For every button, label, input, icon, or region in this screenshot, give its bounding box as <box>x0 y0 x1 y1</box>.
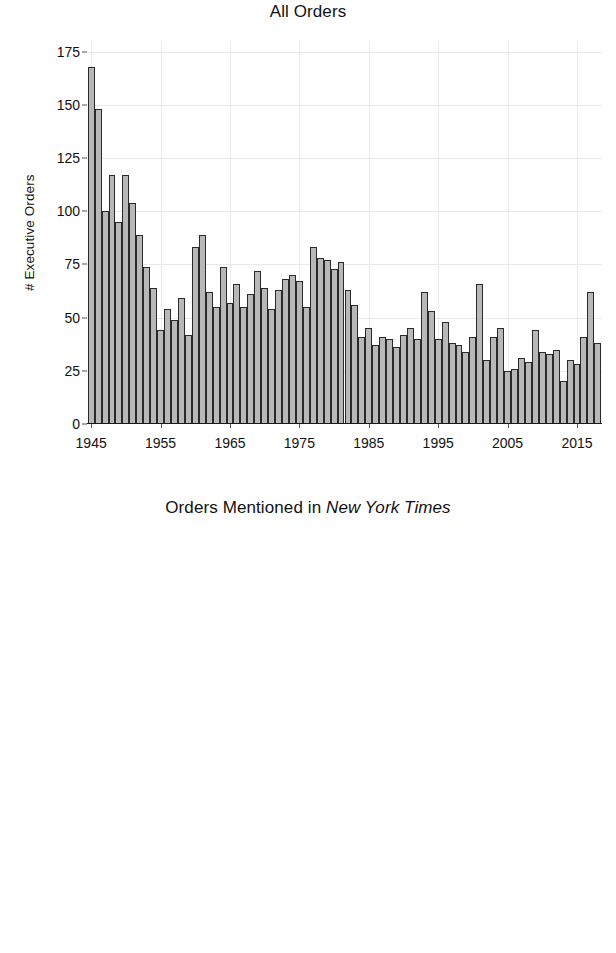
bar <box>379 337 386 424</box>
chart-title-nyt-orders: Orders Mentioned in New York Times <box>0 498 616 518</box>
bar <box>261 288 268 424</box>
bar <box>365 328 372 424</box>
y-axis-tick-mark <box>82 264 87 265</box>
bar <box>511 369 518 424</box>
bar <box>518 358 525 424</box>
chart-panel-nyt-orders: Orders Mentioned in New York Times # Exe… <box>0 478 616 953</box>
x-axis-tick-label: 1985 <box>353 435 384 451</box>
x-axis-tick-label: 1955 <box>145 435 176 451</box>
bar <box>372 345 379 424</box>
bar <box>400 335 407 424</box>
x-axis-tick-mark <box>299 424 300 428</box>
bar <box>227 303 234 424</box>
y-axis-tick-mark <box>82 211 87 212</box>
bar <box>386 339 393 424</box>
bar <box>580 337 587 424</box>
x-axis-tick-mark <box>91 424 92 428</box>
chart-title-all-orders: All Orders <box>0 2 616 22</box>
y-axis-tick-mark <box>82 317 87 318</box>
bar <box>490 337 497 424</box>
bar <box>574 364 581 424</box>
y-axis-tick-label: 75 <box>64 256 80 272</box>
bar <box>525 362 532 424</box>
x-axis-tick-label: 1965 <box>214 435 245 451</box>
y-axis-tick-mark <box>82 424 87 425</box>
bar <box>171 320 178 424</box>
bar <box>428 311 435 424</box>
bar <box>178 298 185 424</box>
chart-title-text-nyt: Orders Mentioned in <box>165 498 326 517</box>
y-axis-tick-label: 25 <box>64 363 80 379</box>
bar <box>164 309 171 424</box>
y-axis-label-top: # Executive Orders <box>22 174 37 291</box>
bar <box>233 284 240 424</box>
x-axis-tick-mark <box>161 424 162 428</box>
bar <box>456 345 463 424</box>
bar <box>136 235 143 424</box>
y-axis-tick-mark <box>82 370 87 371</box>
bar <box>206 292 213 424</box>
bar <box>358 337 365 424</box>
x-axis-tick-mark <box>508 424 509 428</box>
bar <box>282 279 289 424</box>
bar <box>546 354 553 424</box>
bar <box>199 235 206 424</box>
bar <box>254 271 261 424</box>
bar <box>157 330 164 424</box>
bar <box>393 347 400 424</box>
x-axis-tick-label: 2015 <box>561 435 592 451</box>
bar <box>275 290 282 424</box>
bar <box>351 305 358 424</box>
bar <box>268 309 275 424</box>
chart-title-italic-text-nyt: New York Times <box>326 498 451 517</box>
bar <box>497 328 504 424</box>
bar <box>122 175 129 424</box>
bar <box>240 307 247 424</box>
bar <box>449 343 456 424</box>
bar <box>345 290 352 424</box>
bar <box>129 203 136 424</box>
y-axis-tick-label: 175 <box>57 44 80 60</box>
bar <box>407 328 414 424</box>
bar <box>289 275 296 424</box>
y-axis-tick-label: 125 <box>57 150 80 166</box>
bar <box>296 281 303 424</box>
x-axis-tick-label: 1975 <box>284 435 315 451</box>
bar <box>331 269 338 424</box>
bar <box>310 247 317 424</box>
chart-title-text: All Orders <box>270 2 347 21</box>
bar <box>469 337 476 424</box>
bar <box>115 222 122 424</box>
x-axis-tick-mark <box>577 424 578 428</box>
chart-panel-all-orders: All Orders # Executive Orders 0255075100… <box>0 0 616 478</box>
x-axis-tick-mark <box>230 424 231 428</box>
bar <box>150 288 157 424</box>
y-axis-tick-label: 150 <box>57 97 80 113</box>
bar <box>421 292 428 424</box>
bar <box>483 360 490 424</box>
bar <box>587 292 594 424</box>
bar <box>95 109 102 424</box>
y-axis-tick-label: 100 <box>57 203 80 219</box>
bar <box>303 307 310 424</box>
bar <box>185 335 192 424</box>
bar <box>560 381 567 424</box>
y-axis-tick-mark <box>82 51 87 52</box>
y-axis-tick-mark <box>82 104 87 105</box>
x-axis-tick-label: 1995 <box>423 435 454 451</box>
bar <box>317 258 324 424</box>
bar <box>462 352 469 424</box>
bar <box>324 260 331 424</box>
y-axis-tick-label: 0 <box>72 416 80 432</box>
bar <box>88 67 95 424</box>
bar <box>109 175 116 424</box>
plot-area-all-orders: 0255075100125150175 19451955196519751985… <box>87 41 602 424</box>
bar <box>539 352 546 424</box>
bar <box>476 284 483 424</box>
x-axis-tick-label: 2005 <box>492 435 523 451</box>
bar <box>338 262 345 424</box>
bar <box>567 360 574 424</box>
y-axis-tick-mark <box>82 158 87 159</box>
bar <box>213 307 220 424</box>
bar <box>435 339 442 424</box>
